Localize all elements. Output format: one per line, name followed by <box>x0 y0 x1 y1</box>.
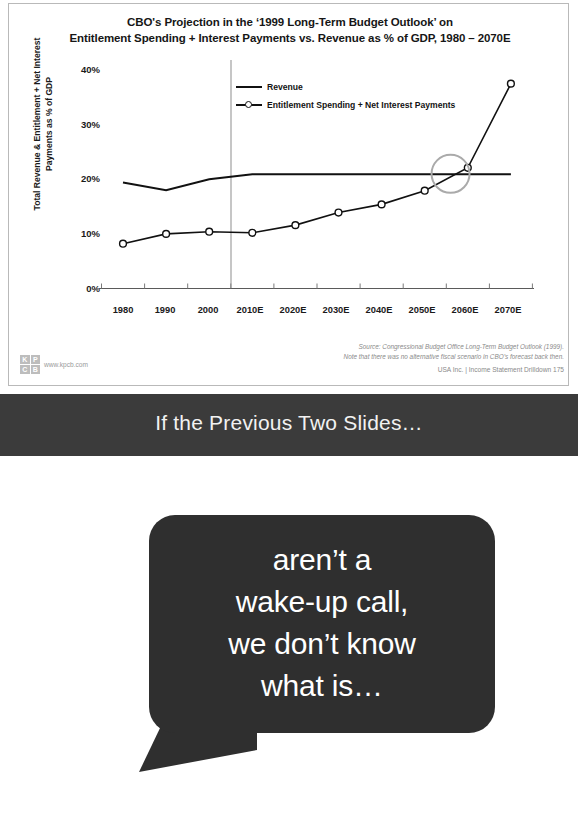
legend-item-entitlement: Entitlement Spending + Net Interest Paym… <box>236 96 455 114</box>
data-point-marker <box>378 201 385 208</box>
slide-footer: USA Inc. | Income Statement Drilldown 17… <box>438 366 564 373</box>
x-tick-marks <box>102 284 533 289</box>
chart-source-note: Source: Congressional Budget Office Long… <box>344 342 564 361</box>
quote-line-2: wake-up call, <box>149 581 495 623</box>
kpcb-letter-b: B <box>31 365 41 374</box>
quote-line-4: what is… <box>149 665 495 707</box>
source-line-1: Source: Congressional Budget Office Long… <box>344 342 564 352</box>
quote-line-3: we don’t know <box>149 623 495 665</box>
slide-quote: If the Previous Two Slides… aren’t a wak… <box>0 394 578 813</box>
slide-title: If the Previous Two Slides… <box>0 411 578 435</box>
legend-label-revenue: Revenue <box>267 82 303 92</box>
data-point-marker <box>508 80 515 87</box>
chart-plot-area: Total Revenue & Entitlement + Net Intere… <box>0 0 578 389</box>
kpcb-url[interactable]: www.kpcb.com <box>44 361 88 368</box>
kpcb-mark-icon: K P C B <box>20 355 40 374</box>
data-point-marker <box>206 228 213 235</box>
slide-chart: CBO's Projection in the ‘1999 Long-Term … <box>0 0 578 389</box>
data-point-marker <box>292 222 299 229</box>
data-point-marker <box>163 230 170 237</box>
quote-line-1: aren’t a <box>149 539 495 581</box>
legend-item-revenue: Revenue <box>236 78 455 96</box>
kpcb-letter-c: C <box>20 365 30 374</box>
legend-label-entitlement: Entitlement Spending + Net Interest Paym… <box>267 100 455 110</box>
slide-deck-page: CBO's Projection in the ‘1999 Long-Term … <box>0 0 578 813</box>
data-point-marker <box>421 187 428 194</box>
speech-bubble: aren’t a wake-up call, we don’t know wha… <box>149 515 495 733</box>
data-point-marker <box>249 229 256 236</box>
legend-swatch-line-icon <box>236 82 262 92</box>
kpcb-logo: K P C B www.kpcb.com <box>20 355 88 374</box>
speech-bubble-text: aren’t a wake-up call, we don’t know wha… <box>149 539 495 707</box>
source-line-2: Note that there was no alternative fisca… <box>344 352 564 362</box>
kpcb-letter-k: K <box>20 355 30 364</box>
data-point-marker <box>120 240 127 247</box>
kpcb-letter-p: P <box>31 355 41 364</box>
legend-swatch-marker-icon <box>236 100 262 110</box>
data-point-marker <box>335 209 342 216</box>
chart-svg <box>0 0 578 389</box>
chart-legend: Revenue Entitlement Spending + Net Inter… <box>236 78 455 114</box>
